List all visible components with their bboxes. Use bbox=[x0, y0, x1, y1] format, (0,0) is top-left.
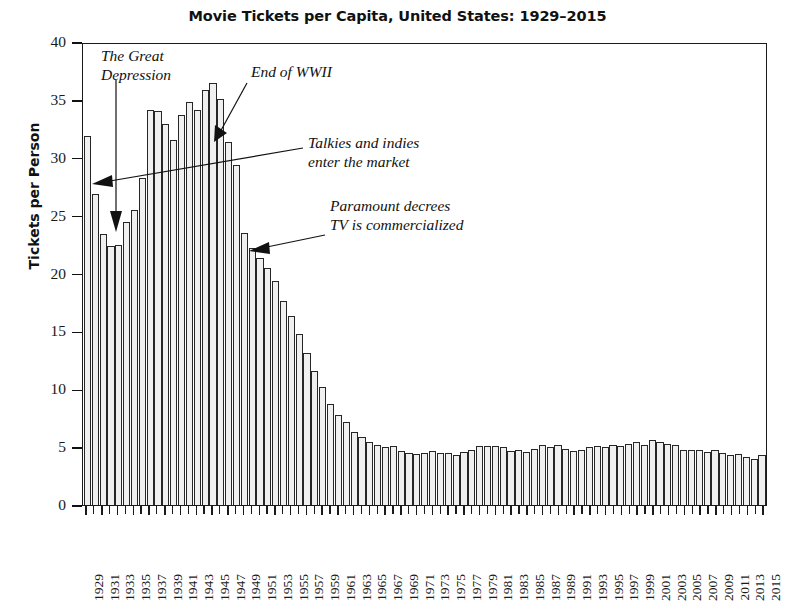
bar bbox=[617, 446, 624, 505]
x-axis-tick-mark bbox=[219, 506, 220, 514]
bar bbox=[586, 447, 593, 505]
x-axis-tick-mark bbox=[487, 506, 488, 514]
x-axis-tick-mark bbox=[266, 506, 267, 514]
y-axis-tick-mark bbox=[72, 158, 82, 159]
y-axis-tick-label: 10 bbox=[32, 380, 66, 398]
bar bbox=[241, 233, 248, 505]
bar bbox=[358, 437, 365, 505]
bar bbox=[296, 334, 303, 505]
x-axis-tick-label-text: 1967 bbox=[390, 574, 406, 601]
bar bbox=[515, 450, 522, 505]
x-axis-tick-mark bbox=[471, 506, 472, 514]
bar bbox=[570, 451, 577, 505]
bar bbox=[374, 445, 381, 505]
y-axis-tick-label: 25 bbox=[32, 207, 66, 225]
x-axis-tick-label-text: 2009 bbox=[721, 574, 737, 601]
x-axis-tick-label-text: 1937 bbox=[154, 574, 170, 601]
x-axis-tick-mark bbox=[440, 506, 441, 514]
bar bbox=[507, 451, 514, 505]
x-axis-tick-label-text: 2015 bbox=[768, 574, 784, 601]
x-axis-tick-mark bbox=[518, 506, 519, 514]
x-axis-tick-mark bbox=[597, 506, 598, 514]
y-axis-tick-labels: 0510152025303540 bbox=[32, 0, 66, 576]
bar bbox=[335, 415, 342, 505]
x-axis-tick-mark bbox=[707, 506, 708, 514]
bar bbox=[562, 449, 569, 505]
bar bbox=[484, 446, 491, 505]
x-axis-tick-mark bbox=[329, 506, 330, 514]
x-axis-tick-mark bbox=[298, 506, 299, 514]
x-axis-tick-label-text: 1989 bbox=[563, 574, 579, 601]
bar bbox=[398, 451, 405, 505]
x-axis-tick-mark bbox=[660, 506, 661, 514]
x-axis-tick-label-text: 1933 bbox=[122, 574, 138, 601]
x-axis-tick-mark bbox=[203, 506, 204, 514]
bar bbox=[641, 445, 648, 505]
x-axis-tick-mark bbox=[377, 506, 378, 514]
bar bbox=[680, 450, 687, 505]
x-axis-tick-mark bbox=[156, 506, 157, 514]
bar bbox=[209, 83, 216, 505]
x-axis-tick-mark bbox=[140, 506, 141, 514]
bar bbox=[194, 110, 201, 505]
x-axis-tick-label-text: 1953 bbox=[280, 574, 296, 601]
bar bbox=[719, 453, 726, 505]
bar bbox=[162, 124, 169, 505]
x-axis-tick-mark bbox=[424, 506, 425, 514]
bar bbox=[217, 99, 224, 505]
bar bbox=[633, 442, 640, 505]
annotation-paramount-tv: Paramount decrees TV is commercialized bbox=[330, 197, 463, 235]
bar bbox=[656, 442, 663, 505]
x-axis-tick-label-text: 1987 bbox=[548, 574, 564, 601]
bar-series bbox=[83, 44, 766, 505]
bar bbox=[602, 447, 609, 505]
x-axis-tick-label-text: 1949 bbox=[248, 574, 264, 601]
x-axis-tick-label-text: 2003 bbox=[674, 574, 690, 601]
y-axis-tick-mark bbox=[72, 100, 82, 101]
bar bbox=[123, 222, 130, 506]
annotation-end-of-wwii: End of WWII bbox=[251, 63, 332, 82]
bar bbox=[578, 450, 585, 505]
bar bbox=[476, 446, 483, 505]
x-axis-tick-label-text: 1999 bbox=[642, 574, 658, 601]
bar bbox=[735, 454, 742, 505]
bar bbox=[554, 445, 561, 505]
x-axis-tick-label-text: 1977 bbox=[469, 574, 485, 601]
y-axis-tick-mark bbox=[72, 447, 82, 448]
bar bbox=[468, 450, 475, 505]
x-axis-tick-label-text: 1997 bbox=[626, 574, 642, 601]
bar bbox=[382, 447, 389, 505]
x-axis-tick-labels: 1929193119331935193719391941194319451947… bbox=[82, 514, 767, 576]
bar bbox=[500, 447, 507, 505]
bar bbox=[672, 445, 679, 505]
y-axis-tick-label: 30 bbox=[32, 149, 66, 167]
x-axis-tick-label-text: 1929 bbox=[91, 574, 107, 601]
bar bbox=[107, 246, 114, 505]
x-axis-tick-mark bbox=[581, 506, 582, 514]
x-axis-tick-mark bbox=[361, 506, 362, 514]
bar bbox=[421, 453, 428, 505]
bar bbox=[170, 140, 177, 505]
bar bbox=[649, 440, 656, 505]
x-axis-tick-label-text: 1963 bbox=[359, 574, 375, 601]
x-axis-tick-mark bbox=[739, 506, 740, 514]
bar bbox=[704, 452, 711, 505]
x-axis-tick-label-text: 1951 bbox=[264, 574, 280, 601]
bar bbox=[154, 111, 161, 505]
x-axis-tick-label-text: 1931 bbox=[107, 574, 123, 601]
bar bbox=[625, 444, 632, 505]
x-axis-tick-label-text: 1947 bbox=[233, 574, 249, 601]
annotation-great-depression: The Great Depression bbox=[101, 47, 171, 85]
x-axis-tick-mark bbox=[550, 506, 551, 514]
x-axis-tick-mark bbox=[566, 506, 567, 514]
x-axis-tick-mark bbox=[723, 506, 724, 514]
bar bbox=[688, 450, 695, 505]
bar bbox=[609, 445, 616, 505]
x-axis-tick-label-text: 1961 bbox=[343, 574, 359, 601]
bar bbox=[523, 452, 530, 505]
y-axis-tick-mark bbox=[72, 42, 82, 43]
x-axis-tick-label-text: 1979 bbox=[485, 574, 501, 601]
bar bbox=[327, 404, 334, 505]
bar bbox=[405, 453, 412, 505]
